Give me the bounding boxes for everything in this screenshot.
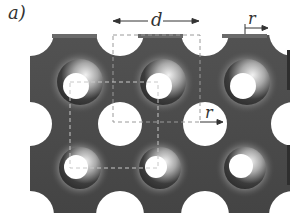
radius-label-mid: r (205, 103, 214, 122)
radius-label-top: r (248, 9, 257, 28)
panel-label: a) (8, 2, 26, 23)
funnel-hole (215, 138, 275, 198)
funnel-hole (215, 50, 279, 114)
perforated-slab-figure: a) (0, 0, 307, 222)
period-label: d (151, 9, 163, 30)
slab-illustration: d r r (0, 0, 307, 222)
